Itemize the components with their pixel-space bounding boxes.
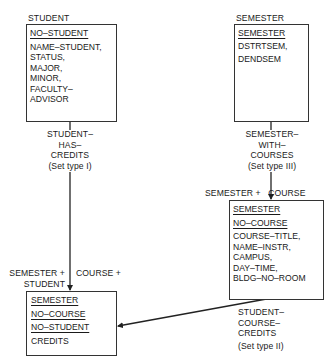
record-box-semester: SEMESTER DSTRTSEM, DENDSEM xyxy=(234,24,309,122)
key-label-credits-left: SEMESTER + STUDENT xyxy=(5,268,65,289)
key-field: NO–STUDENT xyxy=(30,28,113,39)
set-name-line: COURSES xyxy=(237,150,307,161)
data-field: CREDITS xyxy=(31,336,112,347)
data-field: ADVISOR xyxy=(30,94,113,105)
set-name-line: COURSE– xyxy=(238,318,284,329)
record-title-semester: SEMESTER xyxy=(236,13,284,24)
set-label-semester-with-courses: SEMESTER– WITH– COURSES (Set type III) xyxy=(237,129,307,171)
set-name-line: SEMESTER– xyxy=(237,129,307,140)
set-name-line: CREDITS xyxy=(238,328,284,339)
data-field: STATUS, xyxy=(30,52,113,63)
record-box-credits: SEMESTER NO–COURSE NO–STUDENT CREDITS xyxy=(26,291,117,356)
record-box-student: NO–STUDENT NAME–STUDENT, STATUS, MAJOR, … xyxy=(26,24,117,122)
set-name-line: CREDITS xyxy=(40,150,100,161)
set-type: (Set type II) xyxy=(238,341,284,352)
record-title-student: STUDENT xyxy=(28,13,69,24)
key-label-line: SEMESTER + xyxy=(5,268,65,279)
set-type: (Set type III) xyxy=(237,161,307,172)
data-field: MINOR, xyxy=(30,73,113,84)
key-label-line: STUDENT xyxy=(5,279,65,290)
data-field: NAME–INSTR, xyxy=(233,242,320,253)
data-field: DENDSEM xyxy=(238,54,305,65)
key-field: NO–STUDENT xyxy=(31,322,112,333)
set-name-line: STUDENT– xyxy=(40,129,100,140)
record-box-course: SEMESTER NO–COURSE COURSE–TITLE, NAME–IN… xyxy=(229,200,324,300)
key-label-credits-right: COURSE + xyxy=(76,268,121,279)
key-field: NO–COURSE xyxy=(233,218,320,229)
set-name-line: STUDENT– xyxy=(238,307,284,318)
data-field: CAMPUS, xyxy=(233,252,320,263)
data-field: MAJOR, xyxy=(30,63,113,74)
data-field: BLDG–NO–ROOM xyxy=(233,273,320,284)
set-label-student-has-credits: STUDENT– HAS– CREDITS (Set type I) xyxy=(40,129,100,171)
data-field: DAY–TIME, xyxy=(233,263,320,274)
data-field: NAME–STUDENT, xyxy=(30,42,113,53)
key-field: NO–COURSE xyxy=(31,309,112,320)
set-type: (Set type I) xyxy=(40,161,100,172)
set-name-line: HAS– xyxy=(40,140,100,151)
data-field: FACULTY– xyxy=(30,84,113,95)
key-field: SEMESTER xyxy=(238,28,305,39)
key-field: SEMESTER xyxy=(31,295,112,306)
data-field: DSTRTSEM, xyxy=(238,41,305,52)
key-label-course: SEMESTER + COURSE xyxy=(205,188,306,199)
set-label-student-course-credits: STUDENT– COURSE– CREDITS (Set type II) xyxy=(238,307,284,351)
data-field: COURSE–TITLE, xyxy=(233,231,320,242)
set-name-line: WITH– xyxy=(237,140,307,151)
key-field: SEMESTER xyxy=(233,204,320,215)
